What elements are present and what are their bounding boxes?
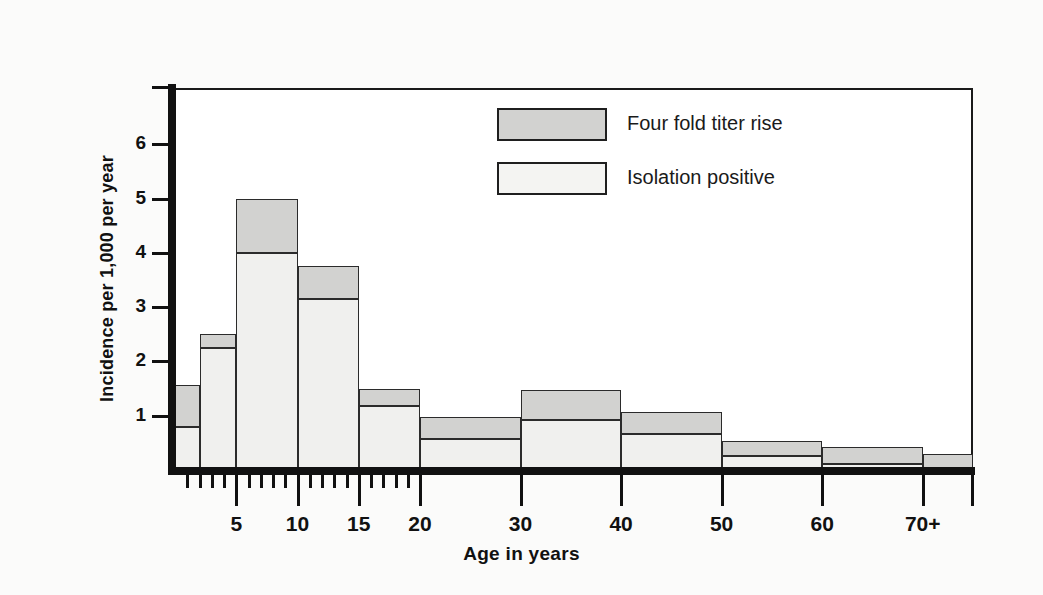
x-axis-minor-tick: [211, 475, 214, 488]
bar-segment-isolation: [236, 253, 297, 470]
bar-segment-isolation: [621, 434, 722, 470]
x-axis-minor-tick: [272, 475, 275, 488]
y-axis-tick-label: 5: [120, 187, 146, 209]
bar-segment-fourfold: [200, 334, 237, 348]
x-axis-minor-tick: [186, 475, 189, 488]
x-axis-minor-tick: [321, 475, 324, 488]
x-axis-tick-label: 50: [682, 512, 762, 536]
y-axis-top-cap-tick: [152, 86, 168, 89]
bar-segment-isolation: [521, 420, 622, 470]
x-axis-major-tick: [419, 475, 422, 506]
x-axis-minor-tick: [260, 475, 263, 488]
x-axis-tick-label: 30: [481, 512, 561, 536]
x-axis-minor-tick: [346, 475, 349, 488]
x-axis-major-tick: [922, 475, 925, 506]
bar-segment-fourfold: [420, 417, 521, 439]
bar-segment-fourfold: [359, 389, 420, 406]
x-axis-major-tick: [721, 475, 724, 506]
x-axis-minor-tick: [407, 475, 410, 488]
chart-figure: 123456 51015203040506070+ Incidence per …: [0, 0, 1043, 595]
x-axis-minor-tick: [223, 475, 226, 488]
x-axis-tick-label: 40: [581, 512, 661, 536]
bar-segment-fourfold: [822, 447, 923, 464]
y-axis-tick-label: 2: [120, 349, 146, 371]
x-axis-minor-tick: [284, 475, 287, 488]
x-axis-major-tick: [821, 475, 824, 506]
x-axis-end-tick: [971, 475, 974, 506]
bar-segment-isolation: [298, 299, 359, 470]
x-axis-major-tick: [235, 475, 238, 506]
y-axis-tick-label: 1: [120, 404, 146, 426]
x-axis-major-tick: [620, 475, 623, 506]
x-axis-major-tick: [297, 475, 300, 506]
bar-segment-isolation: [420, 439, 521, 470]
x-axis-minor-tick: [395, 475, 398, 488]
x-axis-major-tick: [358, 475, 361, 506]
y-axis-spine: [168, 84, 176, 474]
x-axis-title: Age in years: [0, 543, 1043, 565]
legend-swatch-isolation: [497, 162, 607, 195]
x-axis-minor-tick: [248, 475, 251, 488]
y-axis-tick: [152, 415, 168, 418]
bar-segment-isolation: [359, 406, 420, 470]
x-axis-minor-tick: [370, 475, 373, 488]
x-axis-spine: [168, 467, 975, 475]
y-axis-tick: [152, 306, 168, 309]
y-axis-tick: [152, 360, 168, 363]
y-axis-tick-label: 6: [120, 132, 146, 154]
bar-segment-fourfold: [621, 412, 722, 434]
y-axis-tick: [152, 143, 168, 146]
bar-segment-fourfold: [722, 441, 823, 456]
x-axis-minor-tick: [382, 475, 385, 488]
x-axis-major-tick: [520, 475, 523, 506]
x-axis-minor-tick: [309, 475, 312, 488]
x-axis-minor-tick: [333, 475, 336, 488]
x-axis-tick-label: 70+: [883, 512, 963, 536]
y-axis-tick-label: 4: [120, 241, 146, 263]
bar-segment-fourfold: [521, 390, 622, 420]
y-axis-tick-label: 3: [120, 295, 146, 317]
legend-label-fourfold: Four fold titer rise: [627, 112, 783, 135]
legend-label-isolation: Isolation positive: [627, 166, 775, 189]
y-axis-title: Incidence per 1,000 per year: [97, 129, 118, 429]
legend-swatch-fourfold: [497, 108, 607, 141]
x-axis-tick-label: 20: [380, 512, 460, 536]
y-axis-tick: [152, 198, 168, 201]
x-axis-tick-label: 60: [782, 512, 862, 536]
bar-segment-fourfold: [298, 266, 359, 299]
bar-segment-isolation: [200, 348, 237, 470]
bar-segment-fourfold: [236, 199, 297, 253]
x-axis-minor-tick: [199, 475, 202, 488]
y-axis-tick: [152, 252, 168, 255]
bar-segment-fourfold: [175, 385, 200, 427]
bar-segment-isolation: [175, 427, 200, 470]
